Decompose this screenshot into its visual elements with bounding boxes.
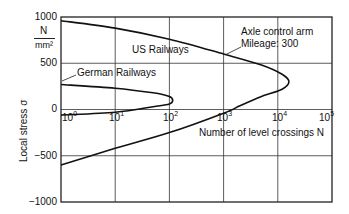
x-tick-base: 10 [62, 112, 73, 123]
german-leader-line [62, 75, 76, 81]
x-tick-1e4: 104 [272, 113, 287, 123]
x-tick-base: 10 [163, 112, 174, 123]
x-tick-exp: 2 [174, 110, 178, 117]
x-tick-base: 10 [319, 112, 330, 123]
series-label-german-railways: German Railways [77, 68, 156, 78]
x-tick-base: 10 [217, 112, 228, 123]
x-tick-1e3: 103 [217, 113, 232, 123]
x-tick-exp: 5 [330, 110, 334, 117]
x-tick-exp: 1 [120, 110, 124, 117]
x-tick-1e5: 105 [319, 113, 334, 123]
annotation-part: Axle control arm [241, 27, 313, 37]
x-tick-exp: 3 [228, 110, 232, 117]
x-axis-label: Number of level crossings N [199, 128, 324, 138]
annotation-mileage: Mileage: 300 [241, 39, 298, 49]
x-tick-1e0: 100 [62, 113, 77, 123]
x-tick-base: 10 [272, 112, 283, 123]
x-tick-exp: 4 [283, 110, 287, 117]
y-tick-500: 500 [13, 58, 57, 68]
y-tick-1000: 1000 [13, 12, 57, 22]
x-tick-1e1: 101 [109, 113, 124, 123]
x-tick-1e2: 102 [163, 113, 178, 123]
y-unit-numerator: N [40, 26, 47, 36]
x-tick-base: 10 [109, 112, 120, 123]
y-unit-denominator: mm² [35, 41, 53, 50]
us-leader-line [225, 47, 241, 55]
series-curve-german-railways [61, 85, 173, 116]
y-tick-neg1000: −1000 [13, 197, 57, 207]
y-unit-fraction-bar [34, 38, 55, 39]
x-tick-exp: 0 [73, 110, 77, 117]
y-axis-label: Local stress σ [19, 100, 29, 162]
series-label-us-railways: US Railways [132, 45, 189, 55]
